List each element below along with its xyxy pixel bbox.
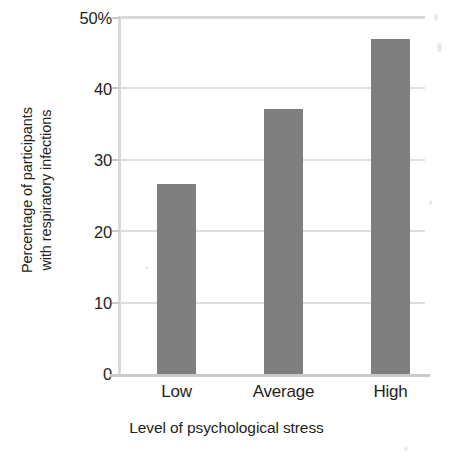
y-axis-title: Percentage of participants with respirat… xyxy=(6,0,68,380)
tick-mark-10 xyxy=(112,302,120,304)
x-tick-label-high: High xyxy=(350,383,431,400)
scan-speck xyxy=(145,266,148,269)
x-tick-label-low: Low xyxy=(136,383,217,400)
y-tick-label-20: 20 xyxy=(62,224,112,241)
scan-speck xyxy=(434,14,438,21)
y-axis-title-line-1: Percentage of participants xyxy=(18,107,37,273)
tick-mark-50 xyxy=(112,17,120,19)
x-axis-baseline xyxy=(110,374,430,377)
y-tick-label-50: 50% xyxy=(62,10,112,27)
bar-high xyxy=(371,39,410,375)
y-axis-title-line-2: with respiratory infections xyxy=(37,107,56,273)
bar-low xyxy=(157,184,196,375)
scan-speck xyxy=(429,200,432,205)
x-axis-title: Level of psychological stress xyxy=(0,420,453,436)
y-tick-label-10: 10 xyxy=(62,295,112,312)
y-axis-tick-labels: 50% 40 30 20 10 0 xyxy=(62,0,112,459)
tick-mark-40 xyxy=(112,87,120,89)
plot-top-border xyxy=(118,16,425,19)
scan-speck xyxy=(404,447,408,451)
plot-left-axis xyxy=(118,16,121,377)
bar-chart-figure: Percentage of participants with respirat… xyxy=(0,0,453,459)
y-tick-label-30: 30 xyxy=(62,152,112,169)
y-tick-label-40: 40 xyxy=(62,81,112,98)
tick-mark-30 xyxy=(112,159,120,161)
y-tick-label-0: 0 xyxy=(62,366,112,383)
bar-average xyxy=(264,109,303,375)
x-tick-label-average: Average xyxy=(238,383,329,400)
tick-mark-20 xyxy=(112,230,120,232)
scan-speck xyxy=(437,43,442,52)
